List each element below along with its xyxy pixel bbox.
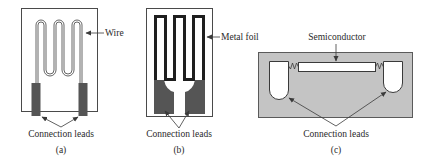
metal-foil-label: Metal foil [221,32,259,42]
panel-c-semiconductor-gauge: Semiconductor Connection leads (c) [259,32,413,156]
caption-b: (b) [173,145,184,156]
connection-leads-label: Connection leads [146,129,212,139]
connection-lead-left [32,83,41,116]
connection-leads-label: Connection leads [303,129,369,139]
panel-a-wire-gauge: Wire Connection leads (a) [22,9,124,157]
caption-c: (c) [331,145,342,156]
panel-b-foil-gauge: Metal foil Connection leads (b) [146,9,259,157]
leads-arrow-left [42,117,61,127]
connection-lead-left [154,80,174,114]
leads-arrow-right [61,117,78,127]
connection-leads-label: Connection leads [28,129,94,139]
connection-lead-right [79,83,88,116]
wire-serpentine [36,20,82,84]
connection-lead-left [270,62,289,100]
strain-gauge-diagram: Wire Connection leads (a) Metal foil Con… [0,0,430,162]
leads-arrow-right [179,111,189,128]
wire-label: Wire [105,28,124,38]
semiconductor-bar [299,63,376,72]
connection-lead-right [185,80,205,114]
semiconductor-label: Semiconductor [308,32,366,42]
caption-a: (a) [56,145,67,156]
connection-lead-right [384,62,403,93]
